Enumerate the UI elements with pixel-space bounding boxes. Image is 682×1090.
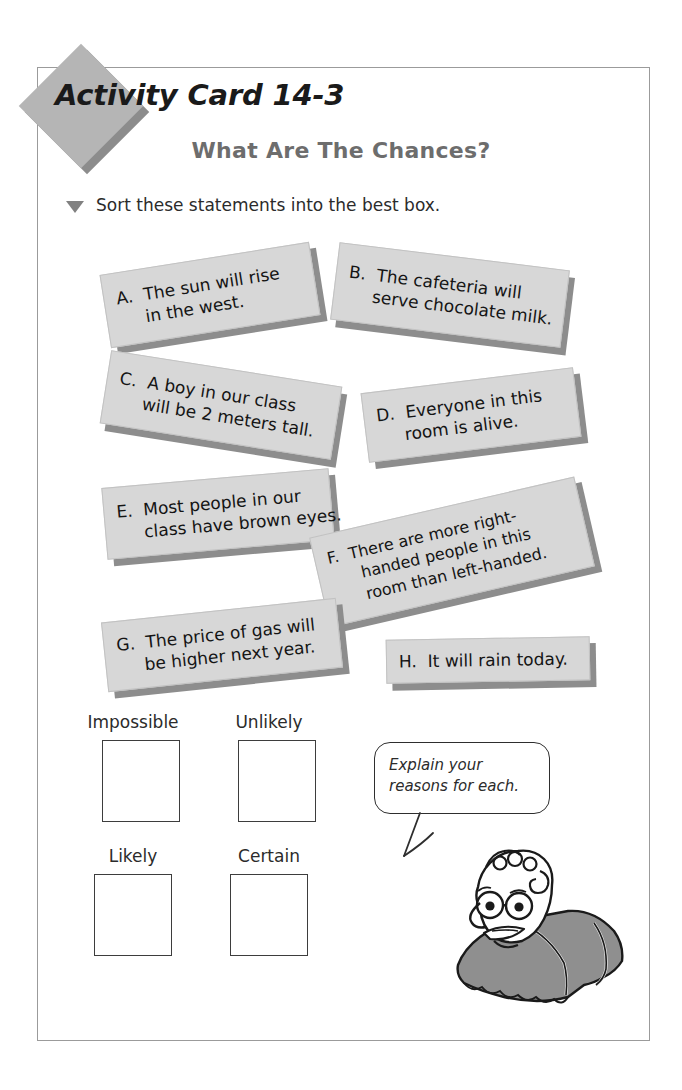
sort-box-label: Impossible xyxy=(78,712,188,732)
card-letter: C. xyxy=(118,368,138,390)
sort-box-label: Likely xyxy=(94,846,172,866)
card-letter: E. xyxy=(116,500,134,521)
sort-box-likely[interactable]: Likely xyxy=(94,846,172,956)
speech-bubble-text: Explain your reasons for each. xyxy=(375,743,549,798)
card-letter: G. xyxy=(115,633,136,655)
card-face: B. The cafeteria will serve chocolate mi… xyxy=(330,242,570,348)
sort-box-certain[interactable]: Certain xyxy=(230,846,308,956)
speech-line-2: reasons for each. xyxy=(389,776,549,797)
statement-card-b[interactable]: B. The cafeteria will serve chocolate mi… xyxy=(330,242,570,348)
card-text: F. There are more right- handed people i… xyxy=(313,490,591,613)
statement-card-a[interactable]: A. The sun will rise in the west. xyxy=(100,242,321,348)
sort-box-dropzone[interactable] xyxy=(238,740,316,822)
card-text: E. Most people in our class have brown e… xyxy=(104,482,333,546)
card-letter: F. xyxy=(325,547,341,568)
cartoon-teacher-illustration xyxy=(418,845,633,1010)
card-letter: A. xyxy=(115,286,135,308)
statement-card-d[interactable]: D. Everyone in this room is alive. xyxy=(361,367,582,463)
statement-card-e[interactable]: E. Most people in our class have brown e… xyxy=(101,468,334,560)
speech-line-1: Explain your xyxy=(389,755,549,776)
sort-box-dropzone[interactable] xyxy=(230,874,308,956)
card-face: D. Everyone in this room is alive. xyxy=(361,367,582,463)
card-text: D. Everyone in this room is alive. xyxy=(363,380,579,450)
card-text: B. The cafeteria will serve chocolate mi… xyxy=(333,259,567,331)
statement-card-h[interactable]: H. It will rain today. xyxy=(386,636,591,684)
sort-box-label: Unlikely xyxy=(214,712,324,732)
card-text: H. It will rain today. xyxy=(387,647,589,673)
statement-card-c[interactable]: C. A boy in our class will be 2 meters t… xyxy=(100,350,343,460)
card-face: A. The sun will rise in the west. xyxy=(100,242,321,348)
speech-bubble: Explain your reasons for each. xyxy=(374,742,550,814)
card-letter: H. xyxy=(399,651,417,671)
sort-box-impossible[interactable]: Impossible xyxy=(94,712,188,822)
statement-card-g[interactable]: G. The price of gas will be higher next … xyxy=(101,598,343,692)
card-letter: D. xyxy=(375,403,396,425)
card-letter: B. xyxy=(348,262,367,284)
card-text: G. The price of gas will be higher next … xyxy=(103,611,340,679)
sort-box-dropzone[interactable] xyxy=(102,740,180,822)
card-face: H. It will rain today. xyxy=(386,636,591,684)
statement-card-f[interactable]: F. There are more right- handed people i… xyxy=(309,477,595,628)
card-line-1: It will rain today. xyxy=(428,649,569,671)
sort-box-label: Certain xyxy=(230,846,308,866)
sort-box-unlikely[interactable]: Unlikely xyxy=(230,712,324,822)
sort-box-dropzone[interactable] xyxy=(94,874,172,956)
